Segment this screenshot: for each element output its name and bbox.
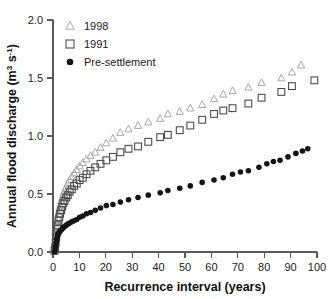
data-point-circle <box>199 180 205 186</box>
y-tick-label: 1.0 <box>28 130 43 142</box>
data-point-square <box>176 127 183 134</box>
x-tick-label: 80 <box>258 261 270 273</box>
data-point-circle <box>146 192 152 198</box>
series-1998 <box>51 61 305 252</box>
data-point-triangle <box>103 139 110 146</box>
data-point-triangle <box>298 61 305 68</box>
x-tick-label: 30 <box>126 261 138 273</box>
data-point-triangle <box>157 115 164 122</box>
flood-frequency-chart: 0.00.51.01.52.0 0102030405060708090100 1… <box>0 0 334 299</box>
data-point-triangle <box>210 95 217 102</box>
data-point-square <box>199 116 206 123</box>
data-point-circle <box>211 177 217 183</box>
data-point-circle <box>98 205 104 211</box>
y-tick-label: 0.5 <box>28 188 43 200</box>
y-tick-label: 2.0 <box>28 14 43 26</box>
y-axis-title: Annual flood discharge (m3 s-1) <box>5 44 20 228</box>
data-point-triangle <box>258 79 265 86</box>
series-1991 <box>51 77 318 254</box>
x-tick-label: 50 <box>179 261 191 273</box>
legend-label: 1998 <box>84 20 108 32</box>
data-point-square <box>220 107 227 114</box>
data-point-triangle <box>288 68 295 75</box>
data-point-circle <box>110 202 116 208</box>
legend-label: Pre-settlement <box>84 56 156 68</box>
x-axis-title: Recurrence interval (years) <box>104 280 265 294</box>
data-point-triangle <box>66 21 74 29</box>
data-point-triangle <box>220 90 227 97</box>
x-tick-label: 60 <box>205 261 217 273</box>
data-point-triangle <box>278 74 285 81</box>
data-point-square <box>289 83 296 90</box>
data-point-square <box>66 40 74 48</box>
data-point-circle <box>238 169 244 175</box>
data-point-square <box>110 153 117 160</box>
data-series-layer <box>51 61 318 254</box>
data-point-triangle <box>199 101 206 108</box>
data-point-circle <box>187 183 193 189</box>
data-point-triangle <box>229 87 236 94</box>
data-point-circle <box>305 146 311 152</box>
data-point-circle <box>285 154 291 160</box>
data-point-circle <box>88 210 94 216</box>
legend-item-1998[interactable]: 1998 <box>66 20 109 32</box>
data-point-square <box>258 94 265 101</box>
x-tick-label: 20 <box>100 261 112 273</box>
data-point-circle <box>220 175 226 181</box>
data-point-triangle <box>245 83 252 90</box>
data-point-square <box>135 143 142 150</box>
legend-item-pre-settlement[interactable]: Pre-settlement <box>67 56 156 68</box>
data-point-circle <box>157 190 163 196</box>
data-point-square <box>311 77 318 84</box>
data-point-circle <box>135 195 141 201</box>
data-point-circle <box>271 159 277 165</box>
data-point-square <box>278 89 285 96</box>
y-axis-ticks: 0.00.51.01.52.0 <box>28 14 53 258</box>
data-point-circle <box>126 197 132 203</box>
y-tick-label: 0.0 <box>28 246 43 258</box>
data-point-circle <box>277 158 283 164</box>
data-point-triangle <box>176 108 183 115</box>
data-point-square <box>164 131 171 138</box>
chart-legend: 19981991Pre-settlement <box>66 20 156 68</box>
x-tick-label: 0 <box>50 261 56 273</box>
x-tick-label: 70 <box>232 261 244 273</box>
data-point-circle <box>177 185 183 191</box>
x-axis-ticks: 0102030405060708090100 <box>50 252 326 273</box>
data-point-square <box>187 122 194 129</box>
data-point-square <box>245 100 252 107</box>
data-point-triangle <box>125 125 132 132</box>
data-point-triangle <box>109 134 116 141</box>
y-tick-label: 1.5 <box>28 72 43 84</box>
data-point-square <box>211 111 218 118</box>
data-point-square <box>145 138 152 145</box>
x-tick-label: 40 <box>152 261 164 273</box>
data-point-square <box>157 134 164 141</box>
x-tick-label: 10 <box>73 261 85 273</box>
x-tick-label: 100 <box>308 261 326 273</box>
data-point-triangle <box>187 104 194 111</box>
data-point-circle <box>92 207 98 213</box>
data-point-circle <box>230 171 236 177</box>
data-point-triangle <box>145 118 152 125</box>
data-point-circle <box>104 203 110 209</box>
data-point-circle <box>118 199 124 205</box>
data-point-square <box>117 149 124 156</box>
data-point-triangle <box>164 110 171 117</box>
data-point-square <box>125 145 132 152</box>
data-point-square <box>229 105 236 112</box>
legend-label: 1991 <box>84 38 108 50</box>
data-point-circle <box>300 148 306 154</box>
legend-item-1991[interactable]: 1991 <box>66 38 108 50</box>
data-point-circle <box>256 165 262 171</box>
data-point-circle <box>67 59 74 66</box>
data-point-circle <box>264 161 270 167</box>
chart-canvas: 0.00.51.01.52.0 0102030405060708090100 1… <box>0 0 334 299</box>
data-point-circle <box>293 151 299 157</box>
x-tick-label: 90 <box>284 261 296 273</box>
data-point-triangle <box>134 122 141 129</box>
data-point-triangle <box>117 129 124 136</box>
data-point-circle <box>165 188 171 194</box>
data-point-circle <box>246 168 252 174</box>
